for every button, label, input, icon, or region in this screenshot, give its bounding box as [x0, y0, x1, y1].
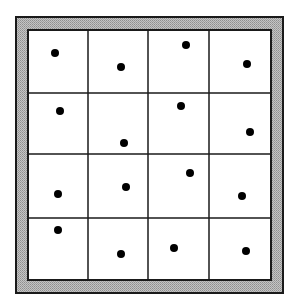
sample-dot-r1-c2	[177, 102, 185, 110]
sample-dot-r0-c3	[243, 60, 251, 68]
sample-dot-r3-c2	[170, 244, 178, 252]
sample-dot-r3-c1	[117, 250, 125, 258]
sample-dot-r0-c0	[51, 49, 59, 57]
sample-dot-r3-c0	[54, 226, 62, 234]
sample-dot-r3-c3	[242, 247, 250, 255]
sample-dot-r1-c3	[246, 128, 254, 136]
sample-dot-r2-c2	[186, 169, 194, 177]
sample-dot-r0-c1	[117, 63, 125, 71]
sample-dot-r1-c0	[56, 107, 64, 115]
sample-dot-r2-c3	[238, 192, 246, 200]
grid-area	[28, 30, 271, 280]
sample-dot-r2-c1	[122, 183, 130, 191]
stratified-grid-diagram	[0, 0, 298, 306]
sample-dot-r1-c1	[120, 139, 128, 147]
sample-dot-r2-c0	[54, 190, 62, 198]
sample-dot-r0-c2	[182, 41, 190, 49]
